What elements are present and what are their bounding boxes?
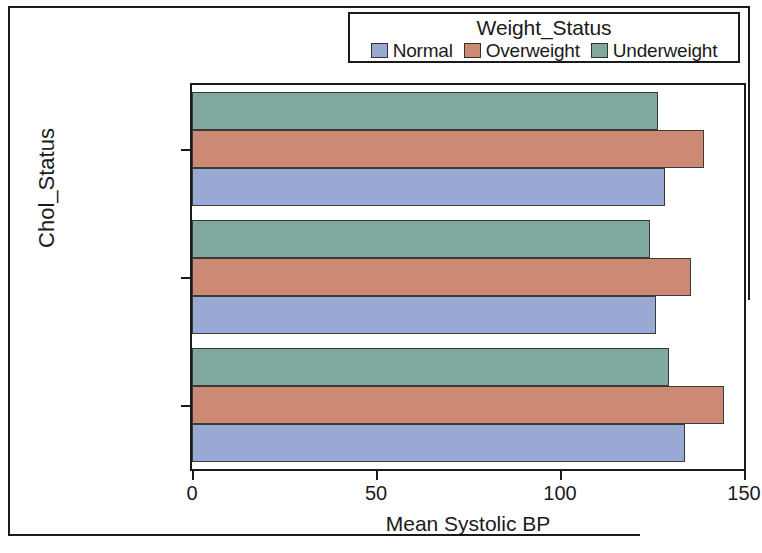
legend-title: Weight_Status bbox=[350, 14, 738, 40]
x-tick-label: 100 bbox=[520, 482, 600, 505]
legend-label-normal: Normal bbox=[393, 40, 453, 61]
legend-swatch-overweight-icon bbox=[464, 43, 481, 58]
bar-borderline-overweight bbox=[192, 130, 704, 168]
x-axis-title: Mean Systolic BP bbox=[190, 512, 746, 536]
legend-swatch-normal-icon bbox=[371, 43, 388, 58]
x-tick-mark bbox=[192, 471, 194, 480]
page-edge-mask-right bbox=[748, 300, 762, 553]
bar-high-underweight bbox=[192, 348, 669, 386]
y-tick-mark bbox=[181, 405, 190, 407]
legend-label-underweight: Underweight bbox=[613, 40, 717, 61]
legend-swatch-underweight-icon bbox=[591, 43, 608, 58]
chart-legend: Weight_Status Normal Overweight Underwei… bbox=[348, 12, 740, 63]
bar-desirable-overweight bbox=[192, 258, 691, 296]
x-tick-mark bbox=[560, 471, 562, 480]
bar-high-normal bbox=[192, 424, 685, 462]
x-tick-mark bbox=[744, 471, 746, 480]
bars-layer bbox=[192, 85, 744, 469]
bar-desirable-normal bbox=[192, 296, 656, 334]
x-tick-label: 50 bbox=[336, 482, 416, 505]
y-tick-mark bbox=[181, 149, 190, 151]
x-tick-label: 150 bbox=[704, 482, 762, 505]
legend-entry-normal[interactable]: Normal bbox=[371, 40, 453, 61]
x-tick-mark bbox=[376, 471, 378, 480]
y-tick-mark bbox=[181, 277, 190, 279]
x-tick-label: 0 bbox=[152, 482, 232, 505]
plot-area bbox=[190, 83, 746, 471]
legend-entry-overweight[interactable]: Overweight bbox=[464, 40, 580, 61]
legend-items: Normal Overweight Underweight bbox=[350, 40, 738, 61]
bar-high-overweight bbox=[192, 386, 724, 424]
legend-label-overweight: Overweight bbox=[486, 40, 580, 61]
bar-borderline-normal bbox=[192, 168, 665, 206]
bar-borderline-underweight bbox=[192, 92, 658, 130]
bar-desirable-underweight bbox=[192, 220, 650, 258]
legend-entry-underweight[interactable]: Underweight bbox=[591, 40, 717, 61]
y-axis-title: Chol_Status bbox=[34, 93, 60, 283]
